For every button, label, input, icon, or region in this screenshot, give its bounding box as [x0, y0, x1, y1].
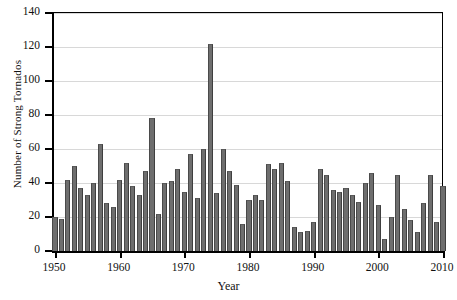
y-axis-tick: [45, 148, 52, 150]
bar: [72, 166, 77, 251]
bar: [389, 217, 394, 251]
bar: [421, 203, 426, 251]
bar: [440, 186, 445, 251]
bar: [149, 118, 154, 251]
y-axis-tick: [45, 80, 52, 82]
y-axis-tick-label: 40: [6, 175, 40, 187]
bar: [91, 183, 96, 251]
bar: [376, 205, 381, 251]
bar: [214, 193, 219, 251]
bar: [137, 195, 142, 251]
y-axis-tick: [45, 250, 52, 252]
y-axis-tick-label: 20: [6, 209, 40, 221]
y-axis-tick: [45, 12, 52, 14]
bar: [337, 192, 342, 252]
x-axis-tick-label: 2000: [354, 261, 400, 273]
bar: [111, 207, 116, 251]
bar: [201, 149, 206, 251]
bar: [428, 175, 433, 252]
y-axis-tick-label: 140: [6, 5, 40, 17]
y-axis-tick: [45, 216, 52, 218]
bar: [356, 202, 361, 251]
bar: [98, 144, 103, 251]
x-axis-tick-label: 1950: [31, 261, 77, 273]
bar: [169, 181, 174, 251]
x-axis-tick-label: 1970: [160, 261, 206, 273]
plot-area: [52, 12, 443, 253]
bar: [350, 195, 355, 251]
bar: [227, 171, 232, 251]
bar: [402, 209, 407, 252]
bar: [259, 200, 264, 251]
bar: [208, 44, 213, 251]
tornado-bar-chart: Number of Strong Tornados 02040608010012…: [0, 0, 457, 300]
y-axis-tick-label: 100: [6, 73, 40, 85]
bar: [175, 169, 180, 251]
bar: [246, 200, 251, 251]
bar: [234, 185, 239, 251]
y-axis-tick-label: 60: [6, 141, 40, 153]
bar: [272, 169, 277, 251]
x-axis-tick: [55, 251, 57, 258]
bar: [298, 232, 303, 251]
y-axis-tick: [45, 46, 52, 48]
x-axis-tick-label: 1990: [290, 261, 336, 273]
bar: [52, 217, 57, 251]
x-axis-tick: [378, 251, 380, 258]
bar: [221, 149, 226, 251]
bar: [59, 219, 64, 251]
bar: [78, 188, 83, 251]
bar-series: [54, 13, 442, 251]
bar: [363, 183, 368, 251]
x-axis-tick: [184, 251, 186, 258]
bar: [279, 163, 284, 251]
bar: [65, 180, 70, 251]
bar: [124, 163, 129, 251]
bar: [188, 154, 193, 251]
x-axis-tick-label: 1980: [225, 261, 271, 273]
bar: [240, 224, 245, 251]
x-axis-tick-label: 1960: [96, 261, 142, 273]
y-axis-tick: [45, 114, 52, 116]
x-axis-tick: [443, 251, 445, 258]
bar: [182, 192, 187, 252]
y-axis-tick-label: 120: [6, 39, 40, 51]
bar: [311, 222, 316, 251]
x-axis-tick: [314, 251, 316, 258]
bar: [292, 227, 297, 251]
bar: [156, 214, 161, 251]
y-axis-tick-label: 0: [6, 243, 40, 255]
bar: [266, 164, 271, 251]
bar: [305, 231, 310, 251]
bar: [343, 188, 348, 251]
bar: [130, 186, 135, 251]
bar: [395, 175, 400, 252]
bar: [318, 169, 323, 251]
bar: [369, 173, 374, 251]
bar: [324, 175, 329, 252]
bar: [85, 195, 90, 251]
bar: [408, 220, 413, 251]
bar: [285, 181, 290, 251]
bar: [195, 198, 200, 251]
y-axis-tick: [45, 182, 52, 184]
bar: [104, 203, 109, 251]
y-axis-tick-label: 80: [6, 107, 40, 119]
bar: [253, 195, 258, 251]
bar: [162, 183, 167, 251]
bar: [382, 239, 387, 251]
x-axis-title: Year: [0, 279, 457, 294]
bar: [117, 180, 122, 251]
bar: [331, 190, 336, 251]
bar: [415, 232, 420, 251]
bar: [143, 171, 148, 251]
x-axis-tick: [249, 251, 251, 258]
x-axis-tick-label: 2010: [419, 261, 457, 273]
bar: [434, 222, 439, 251]
x-axis-tick: [120, 251, 122, 258]
